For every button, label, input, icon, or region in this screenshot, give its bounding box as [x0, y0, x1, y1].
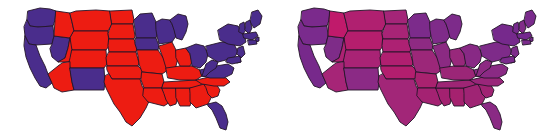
state-purple-nh	[519, 20, 526, 34]
state-binary-ok	[107, 66, 144, 79]
state-purple-mn	[408, 13, 432, 38]
state-purple-co	[343, 50, 381, 68]
state-binary-ky	[166, 66, 202, 80]
state-binary-mt	[70, 10, 112, 31]
state-purple-az	[322, 62, 348, 92]
state-binary-ct	[248, 40, 257, 45]
state-binary-sd	[108, 24, 135, 39]
state-binary-wy	[70, 31, 109, 50]
state-binary-ia	[135, 38, 159, 50]
state-purple-ok	[381, 66, 418, 79]
state-purple-mt	[344, 10, 386, 31]
state-binary-me	[250, 10, 262, 28]
state-binary-wa	[27, 8, 56, 27]
state-purple-sd	[382, 24, 409, 39]
state-binary-fl	[208, 102, 228, 130]
state-binary-nh	[245, 20, 252, 34]
state-purple-ky	[440, 66, 476, 80]
election-map-figure	[0, 0, 548, 139]
state-binary-nd	[110, 10, 134, 24]
state-binary-ne	[108, 39, 137, 52]
state-purple-nm	[344, 68, 379, 90]
state-binary-mn	[134, 13, 158, 38]
state-purple-ne	[382, 39, 411, 52]
purple-america-map-panel	[274, 0, 548, 139]
state-purple-fl	[482, 102, 502, 130]
state-purple-wy	[344, 31, 383, 50]
state-purple-ar	[415, 72, 438, 88]
state-purple-ia	[409, 38, 433, 50]
state-purple-wa	[301, 8, 330, 27]
purple-us-map-svg	[274, 0, 548, 139]
state-binary-ar	[141, 72, 164, 88]
state-purple-me	[524, 10, 536, 28]
state-binary-ks	[106, 52, 139, 66]
state-purple-ct	[522, 40, 531, 45]
state-binary-nm	[70, 68, 105, 90]
state-purple-nd	[384, 10, 408, 24]
state-binary-co	[69, 50, 107, 68]
winner-take-all-map-panel	[0, 0, 274, 139]
binary-us-map-svg	[0, 0, 274, 139]
state-binary-az	[48, 62, 74, 92]
state-purple-ks	[380, 52, 413, 66]
